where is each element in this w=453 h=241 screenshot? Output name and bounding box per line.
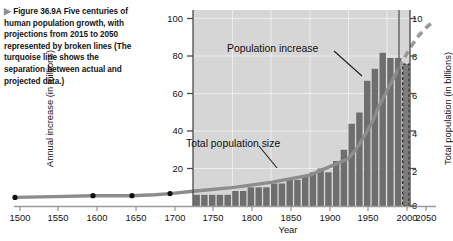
bar: [279, 184, 285, 207]
bar: [209, 195, 215, 206]
bar: [271, 184, 277, 207]
bar: [325, 172, 331, 206]
bar: [364, 81, 370, 206]
bar: [372, 69, 378, 206]
bar-projected: [411, 85, 417, 207]
bar: [201, 195, 207, 206]
bar: [194, 195, 200, 206]
bar: [294, 180, 300, 206]
bar: [225, 195, 231, 206]
annotation-population-increase: Population increase: [227, 43, 318, 54]
bar: [380, 53, 386, 206]
bar: [217, 195, 223, 206]
bar: [310, 172, 316, 206]
bar: [263, 187, 269, 206]
data-point: [12, 195, 17, 200]
bar: [248, 187, 254, 206]
bar-projected: [403, 64, 409, 206]
bar: [333, 161, 339, 206]
data-point: [129, 193, 134, 198]
annotation-total-population-size: Total population size: [186, 138, 280, 149]
bar: [240, 191, 246, 206]
data-point: [90, 193, 95, 198]
bar: [232, 191, 238, 206]
bar: [256, 187, 262, 206]
bar-projected: [418, 107, 424, 206]
bar: [356, 113, 362, 207]
bar: [318, 169, 324, 207]
bar: [287, 180, 293, 206]
bar: [349, 124, 355, 206]
bar: [302, 176, 308, 206]
bar-projected: [426, 126, 432, 206]
data-point: [167, 191, 172, 196]
